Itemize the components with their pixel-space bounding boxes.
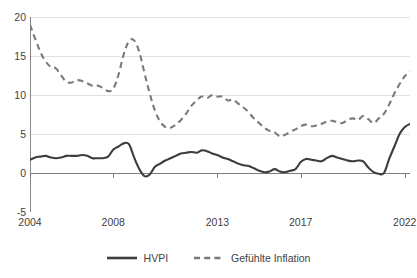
inflation-line-chart: 20151050-5 20042008201320172022 HVPI Gef… bbox=[0, 0, 417, 278]
legend-item-gefuehlte-inflation[interactable]: Gefühlte Inflation bbox=[194, 253, 310, 264]
gridlines bbox=[30, 18, 410, 213]
y-tick-label: 10 bbox=[2, 90, 26, 101]
series-line-hvpi bbox=[30, 124, 410, 177]
legend-key-solid-icon bbox=[107, 253, 137, 263]
y-tick-label: 20 bbox=[2, 12, 26, 23]
legend-label-gefuehlte-inflation: Gefühlte Inflation bbox=[231, 253, 310, 264]
legend-item-hvpi[interactable]: HVPI bbox=[107, 253, 169, 264]
x-axis-tickmarks bbox=[30, 18, 406, 213]
x-tick-label: 2022 bbox=[382, 217, 417, 228]
x-axis-labels: 20042008201320172022 bbox=[0, 217, 417, 233]
series-line-gefuehlte-inflation bbox=[30, 25, 410, 137]
y-tick-label: 0 bbox=[2, 168, 26, 179]
legend-label-hvpi: HVPI bbox=[144, 253, 169, 264]
x-tick-label: 2004 bbox=[7, 217, 53, 228]
chart-legend: HVPI Gefühlte Inflation bbox=[0, 248, 417, 268]
plot-area bbox=[30, 17, 410, 212]
y-tick-label: 5 bbox=[2, 129, 26, 140]
y-axis-labels: 20151050-5 bbox=[0, 0, 26, 278]
legend-key-dashed-icon bbox=[194, 253, 224, 263]
x-tick-label: 2013 bbox=[194, 217, 240, 228]
plot-svg bbox=[30, 17, 410, 212]
x-tick-label: 2008 bbox=[90, 217, 136, 228]
y-tick-label: 15 bbox=[2, 51, 26, 62]
x-tick-label: 2017 bbox=[278, 217, 324, 228]
